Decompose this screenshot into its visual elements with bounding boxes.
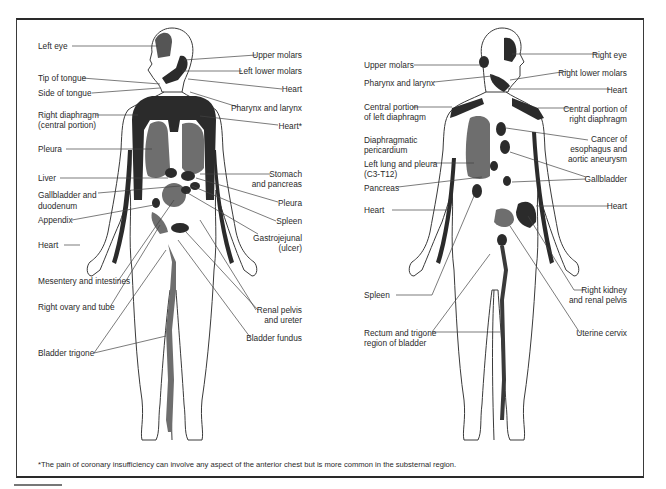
label-upper-molars: Upper molars <box>364 60 414 70</box>
label-gallbladder: Gallbladder <box>585 174 627 184</box>
label-gastrojejunal-sub: (ulcer) <box>278 243 302 253</box>
label-pharynx-larynx: Pharynx and larynx <box>231 103 302 113</box>
label-heart: Heart <box>38 240 58 250</box>
leader-lines <box>60 46 610 353</box>
label-gallbladder-duodenum-sub: duodenum <box>38 201 77 211</box>
label-stomach-pancreas: Stomach <box>269 169 302 179</box>
label-renal-pelvis-ureter-sub: and ureter <box>264 315 302 325</box>
label-pharynx-larynx: Pharynx and larynx <box>364 78 435 88</box>
label-diaphragmatic-pericardium: Diaphragmatic <box>364 135 418 145</box>
label-right-eye: Right eye <box>592 50 627 60</box>
label-cancer-esophagus-sub1: esophagus and <box>570 144 627 154</box>
label-central-right-diaphragm: Central portion of <box>563 104 627 114</box>
label-side-of-tongue: Side of tongue <box>38 88 92 98</box>
label-heart-asterisk: Heart* <box>278 121 302 131</box>
label-tip-of-tongue: Tip of tongue <box>38 73 86 83</box>
page-edge-mark <box>14 484 62 486</box>
label-left-lung-pleura-sub: (C3-T12) <box>364 169 397 179</box>
label-appendix: Appendix <box>38 215 73 225</box>
label-right-ovary-tube: Right ovary and tube <box>38 302 115 312</box>
label-heart-2: Heart <box>607 201 627 211</box>
footnote: *The pain of coronary insufficiency can … <box>38 460 456 469</box>
label-gallbladder-duodenum: Gallbladder and <box>38 190 97 200</box>
label-left-eye: Left eye <box>38 41 68 51</box>
label-left-lower-molars: Left lower molars <box>239 66 302 76</box>
label-heart: Heart <box>282 84 302 94</box>
label-right-diaphragm-sub: (central portion) <box>38 120 96 130</box>
label-gastrojejunal: Gastrojejunal <box>253 233 302 243</box>
label-central-right-diaphragm-sub: right diaphragm <box>569 114 627 124</box>
label-stomach-pancreas-sub: and pancreas <box>252 179 302 189</box>
label-rectum-trigone-sub: region of bladder <box>364 338 426 348</box>
label-pancreas: Pancreas <box>364 183 399 193</box>
label-cancer-esophagus: Cancer of <box>591 134 627 144</box>
label-diaphragmatic-pericardium-sub: pericardium <box>364 145 407 155</box>
label-left-lung-pleura: Left lung and pleura <box>364 159 437 169</box>
label-uterine-cervix: Uterine cervix <box>576 328 627 338</box>
label-spleen: Spleen <box>276 216 302 226</box>
label-renal-pelvis-ureter: Renal pelvis <box>257 305 302 315</box>
label-rectum-trigone: Rectum and trigone <box>364 328 436 338</box>
label-mesentery-intestines: Mesentery and intestines <box>38 276 130 286</box>
label-heart: Heart <box>607 85 627 95</box>
label-right-diaphragm: Right diaphragm <box>38 110 99 120</box>
label-heart: Heart <box>364 205 384 215</box>
label-central-left-diaphragm-sub: of left diaphragm <box>364 112 426 122</box>
label-bladder-trigone: Bladder trigone <box>38 348 94 358</box>
label-upper-molars: Upper molars <box>252 50 302 60</box>
posterior-body-figure <box>409 28 579 440</box>
label-right-lower-molars: Right lower molars <box>558 68 627 78</box>
label-bladder-fundus: Bladder fundus <box>246 333 302 343</box>
label-right-kidney-sub: and renal pelvis <box>569 295 627 305</box>
label-pleura: Pleura <box>38 144 62 154</box>
label-liver: Liver <box>38 173 56 183</box>
label-pleura: Pleura <box>278 198 302 208</box>
label-spleen: Spleen <box>364 290 390 300</box>
label-cancer-esophagus-sub2: aortic aneurysm <box>568 154 627 164</box>
label-central-left-diaphragm: Central portion <box>364 102 418 112</box>
label-right-kidney: Right kidney <box>581 285 627 295</box>
